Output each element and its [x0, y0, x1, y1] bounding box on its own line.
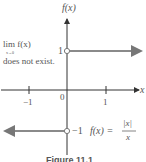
function-numerator: |x| [123, 119, 132, 128]
origin-label: 0 [60, 93, 65, 102]
tick-label-neg-one: −1 [23, 98, 33, 107]
tick-label-pos-one: 1 [103, 98, 108, 107]
limit-text: lim f(x) [3, 40, 31, 49]
function-denominator: x [126, 133, 130, 142]
graph-canvas [0, 0, 146, 162]
y-tick-label-neg-one: −1 [72, 126, 83, 136]
open-circle-lower [64, 128, 69, 133]
limit-subscript: x→0 [6, 51, 14, 55]
open-circle-upper [64, 48, 69, 53]
y-tick-label-one: 1 [58, 46, 63, 56]
function-lhs: f(x) = [90, 126, 113, 136]
limit-dne-text: does not exist. [3, 57, 55, 66]
figure-caption: Figure 11.1 [46, 156, 93, 162]
y-axis-label: f(x) [62, 3, 76, 13]
x-axis-label: x [140, 85, 144, 95]
